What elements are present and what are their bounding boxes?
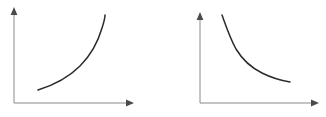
chart-decreasing-convex: [0, 0, 326, 117]
figure-pair-container: [0, 0, 326, 117]
decreasing-curve: [222, 15, 290, 82]
x-axis-arrowhead-icon: [311, 100, 319, 107]
y-axis-arrowhead-icon: [197, 12, 204, 20]
